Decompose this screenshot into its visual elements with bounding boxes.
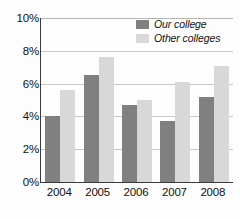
grouped-bar-chart: 20042005200620072008 Our collegeOther co…: [0, 0, 240, 219]
y-axis-tick-label: 0%: [5, 176, 39, 188]
bar: [99, 57, 114, 182]
bar: [84, 75, 99, 182]
legend-item-label: Our college: [154, 18, 207, 30]
y-axis-tick-label: 10%: [5, 12, 39, 24]
bar: [175, 82, 190, 182]
y-axis-tick-label: 2%: [5, 143, 39, 155]
bar-group-2004: [41, 18, 79, 182]
x-axis-tick-label: 2008: [194, 186, 232, 198]
bar: [214, 66, 229, 182]
bar: [122, 105, 137, 182]
bar: [160, 121, 175, 182]
bar: [199, 97, 214, 182]
legend-swatch-icon: [136, 20, 149, 29]
legend-item: Other colleges: [136, 32, 220, 44]
legend-swatch-icon: [136, 34, 149, 43]
x-axis-tick-label: 2004: [40, 186, 78, 198]
bar: [45, 116, 60, 182]
legend-item: Our college: [136, 18, 220, 30]
bar-group-2005: [79, 18, 117, 182]
legend-item-label: Other colleges: [154, 32, 220, 44]
x-axis-tick-labels: 20042005200620072008: [40, 186, 232, 198]
x-axis-tick-label: 2007: [155, 186, 193, 198]
bar: [137, 100, 152, 182]
chart-legend: Our collegeOther colleges: [136, 18, 220, 44]
x-axis-tick-label: 2006: [117, 186, 155, 198]
bar: [60, 90, 75, 182]
y-axis-tick-label: 6%: [5, 78, 39, 90]
x-axis-tick-label: 2005: [78, 186, 116, 198]
y-axis-tick-label: 8%: [5, 45, 39, 57]
y-axis-tick-label: 4%: [5, 110, 39, 122]
